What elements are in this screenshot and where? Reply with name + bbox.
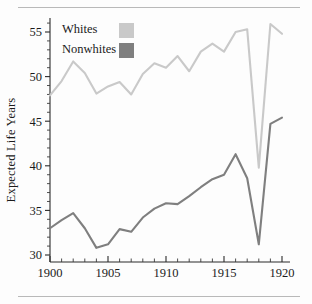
- series-line-nonwhites: [50, 118, 282, 248]
- line-chart: 303540455055 19001905191019151920 Whites…: [0, 0, 312, 304]
- figure-panel: 303540455055 19001905191019151920 Whites…: [0, 0, 312, 304]
- x-tick-label: 1905: [96, 266, 121, 280]
- y-tick-label: 40: [30, 159, 43, 173]
- y-tick-label: 50: [30, 70, 43, 84]
- legend-label-nonwhites: Nonwhites: [62, 42, 116, 56]
- y-axis: 303540455055: [30, 18, 51, 262]
- y-tick-label: 35: [30, 204, 43, 218]
- y-tick-label: 55: [30, 25, 43, 39]
- legend-swatch-whites: [119, 23, 134, 38]
- x-tick-label: 1910: [154, 266, 179, 280]
- x-tick-label: 1915: [212, 266, 237, 280]
- legend-swatch-nonwhites: [119, 43, 134, 58]
- y-tick-label: 45: [30, 115, 43, 129]
- series-lines: [50, 24, 282, 248]
- y-tick-label: 30: [30, 248, 43, 262]
- y-axis-title: Expected Life Years: [4, 98, 18, 203]
- x-tick-label: 1900: [38, 266, 63, 280]
- chart-legend: WhitesNonwhites: [62, 22, 134, 58]
- x-tick-label: 1920: [270, 266, 295, 280]
- x-axis: 19001905191019151920: [38, 256, 295, 280]
- legend-label-whites: Whites: [62, 22, 98, 36]
